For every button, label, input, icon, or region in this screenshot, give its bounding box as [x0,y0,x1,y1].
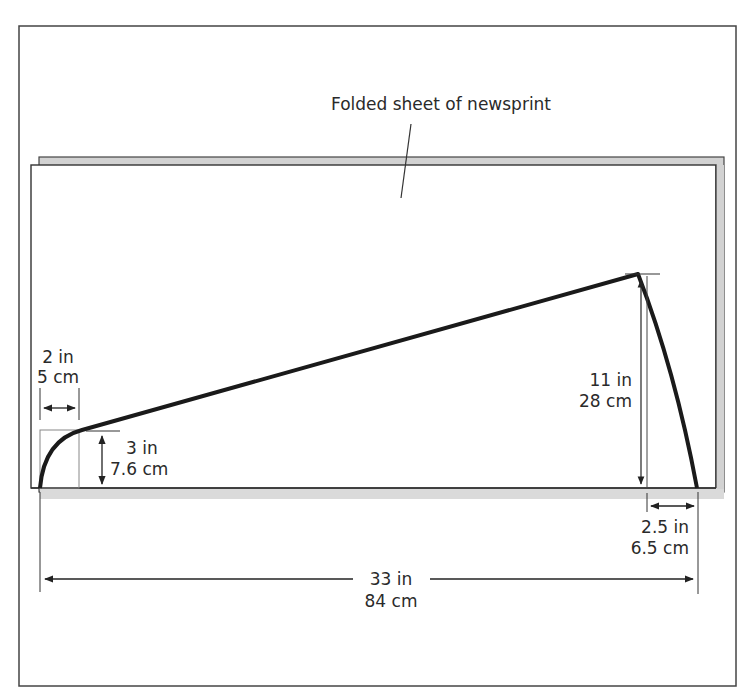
top-width-in: 2 in [42,347,74,367]
right-height-in: 11 in [589,370,632,390]
left-height-cm: 7.6 cm [110,459,168,479]
left-height-in: 3 in [126,438,158,458]
top-width-cm: 5 cm [37,367,79,387]
right-height-cm: 28 cm [579,391,632,411]
offset-in: 2.5 in [641,517,689,537]
title-label: Folded sheet of newsprint [331,94,551,114]
sheet-edge-shadow [716,165,724,492]
sheet-bottom-shadow [40,489,724,499]
pattern-diagram: Folded sheet of newsprint 2 in 5 cm 3 in… [0,0,750,699]
total-length-cm: 84 cm [365,591,418,611]
offset-cm: 6.5 cm [631,538,689,558]
total-length-in: 33 in [370,569,413,589]
